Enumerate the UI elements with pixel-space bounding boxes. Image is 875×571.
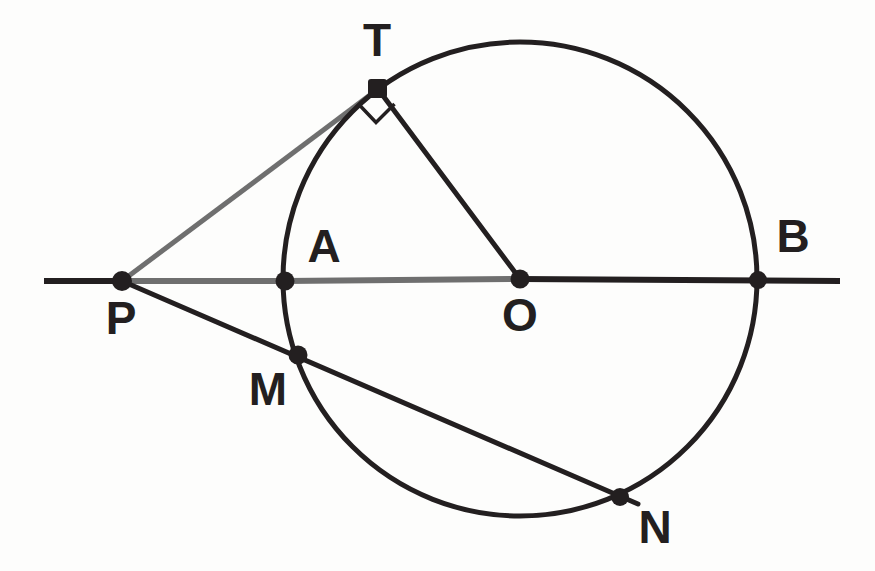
point-label-B: B: [776, 210, 809, 262]
radius-line-to: [378, 89, 520, 279]
point-dot-O[interactable]: [511, 270, 530, 289]
point-dot-M[interactable]: [289, 346, 308, 365]
geometry-canvas: T A B P O M N: [0, 0, 875, 571]
points-group: [112, 79, 767, 506]
point-label-T: T: [363, 14, 391, 66]
point-label-A: A: [307, 220, 340, 272]
line-ao-gray: [285, 279, 521, 281]
point-dot-T[interactable]: [368, 79, 387, 98]
point-dot-A[interactable]: [276, 272, 295, 291]
point-dot-P[interactable]: [112, 271, 132, 291]
point-label-M: M: [249, 363, 287, 415]
point-label-P: P: [106, 292, 137, 344]
point-label-O: O: [502, 289, 538, 341]
point-dot-N[interactable]: [611, 488, 629, 506]
point-dot-B[interactable]: [749, 271, 767, 289]
point-label-N: N: [638, 501, 671, 553]
line-ob-ray: [519, 279, 840, 281]
geometry-diagram: T A B P O M N: [0, 0, 875, 571]
